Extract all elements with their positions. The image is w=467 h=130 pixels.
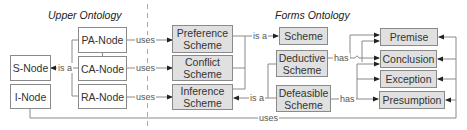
- inference-scheme-box: Inference Scheme: [172, 84, 233, 110]
- conflict-scheme-box: Conflict Scheme: [172, 55, 233, 81]
- ra-node-box: RA-Node: [78, 84, 127, 109]
- exception-box: Exception: [380, 70, 437, 88]
- bottom-uses-label: uses: [258, 113, 279, 123]
- ca-uses-label: uses: [135, 63, 156, 73]
- conclusion-box: Conclusion: [380, 50, 437, 68]
- presumption-box: Presumption: [379, 91, 445, 109]
- s-node-is-a-label: is a: [57, 63, 73, 73]
- defeasible-has-label: has: [339, 94, 356, 104]
- deductive-scheme-box: Deductive Scheme: [276, 50, 328, 77]
- preference-scheme-box: Preference Scheme: [172, 25, 233, 53]
- ca-node-box: CA-Node: [78, 56, 127, 81]
- pa-node-box: PA-Node: [78, 27, 127, 53]
- pa-uses-label: uses: [135, 35, 156, 45]
- upper-ontology-title: Upper Ontology: [48, 9, 122, 21]
- deductive-has-label: has: [333, 53, 350, 63]
- ra-uses-label: uses: [135, 92, 156, 102]
- i-node-box: I-Node: [10, 84, 51, 109]
- s-node-box: S-Node: [10, 55, 51, 81]
- forms-ontology-title: Forms Ontology: [275, 9, 350, 21]
- premise-box: Premise: [380, 28, 438, 46]
- defeasible-scheme-box: Defeasible Scheme: [276, 85, 331, 112]
- scheme-box: Scheme: [279, 27, 328, 45]
- inference-is-a-label: is a: [249, 93, 265, 103]
- scheme-is-a-label: is a: [252, 31, 268, 41]
